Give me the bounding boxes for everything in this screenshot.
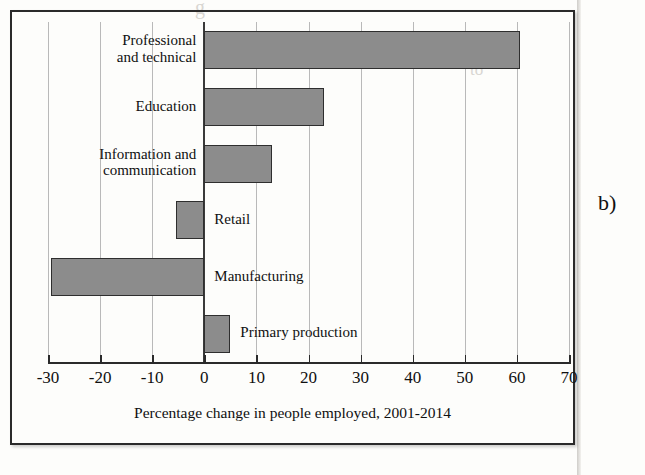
- x-tick-label-10: 10: [248, 368, 265, 388]
- x-tick-60: [517, 355, 519, 364]
- category-label: Education: [135, 98, 196, 115]
- x-tick-label--20: -20: [89, 368, 112, 388]
- gridline--20: [100, 22, 101, 362]
- bar[interactable]: [204, 315, 230, 353]
- plot-area: Professional and technicalEducationInfor…: [48, 22, 569, 362]
- gridline--30: [48, 22, 49, 362]
- x-tick-label-20: 20: [300, 368, 317, 388]
- bar[interactable]: [51, 258, 205, 296]
- bar[interactable]: [204, 145, 272, 183]
- bar[interactable]: [204, 31, 519, 69]
- category-label: Retail: [214, 211, 250, 228]
- category-label: Information and communication: [99, 146, 196, 180]
- category-label: Manufacturing: [214, 268, 303, 285]
- x-tick-label--10: -10: [141, 368, 164, 388]
- x-tick-label-40: 40: [404, 368, 421, 388]
- category-label: Primary production: [240, 324, 357, 341]
- gridline-70: [569, 22, 570, 362]
- chart-frame: Professional and technicalEducationInfor…: [10, 10, 575, 445]
- x-tick-10: [256, 355, 258, 364]
- x-tick-50: [465, 355, 467, 364]
- gridline-60: [517, 22, 518, 362]
- x-tick-30: [361, 355, 363, 364]
- x-axis: -30-20-10010203040506070: [48, 362, 569, 363]
- bar[interactable]: [204, 88, 324, 126]
- category-label: Professional and technical: [117, 32, 197, 66]
- x-tick-40: [413, 355, 415, 364]
- page-gutter-shadow: [577, 0, 581, 475]
- zero-line: [203, 22, 205, 362]
- x-tick--10: [152, 355, 154, 364]
- gridline-30: [361, 22, 362, 362]
- x-tick-label-70: 70: [561, 368, 578, 388]
- x-axis-title: Percentage change in people employed, 20…: [12, 404, 573, 422]
- x-tick-label-60: 60: [508, 368, 525, 388]
- x-tick--30: [48, 355, 50, 364]
- x-tick-0: [204, 355, 206, 364]
- gridline-20: [309, 22, 310, 362]
- x-tick-20: [309, 355, 311, 364]
- x-tick-label-0: 0: [200, 368, 209, 388]
- x-tick-label--30: -30: [37, 368, 60, 388]
- gridline-50: [465, 22, 466, 362]
- x-tick-label-30: 30: [352, 368, 369, 388]
- x-tick-label-50: 50: [456, 368, 473, 388]
- gridline-40: [413, 22, 414, 362]
- x-tick-70: [569, 355, 571, 364]
- panel-letter-label: b): [598, 190, 616, 216]
- bar[interactable]: [176, 201, 205, 239]
- gridline-10: [256, 22, 257, 362]
- gridline--10: [152, 22, 153, 362]
- x-tick--20: [100, 355, 102, 364]
